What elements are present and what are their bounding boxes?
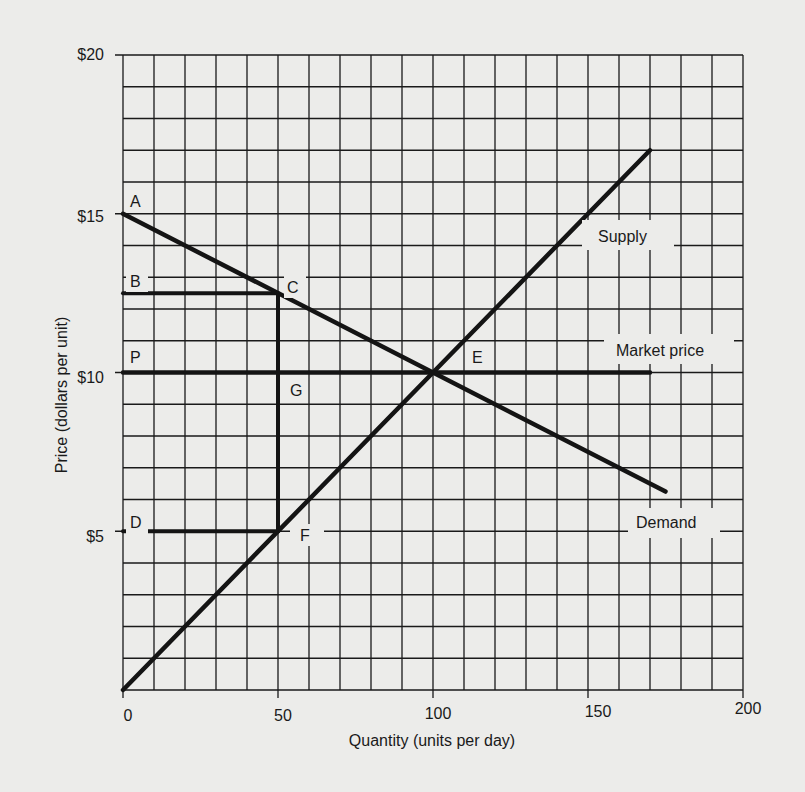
label-B: B — [130, 273, 141, 290]
supply-line — [123, 150, 650, 690]
x-tick-50: 50 — [274, 707, 292, 724]
label-F: F — [300, 527, 310, 544]
label-C: C — [287, 279, 299, 296]
y-tick-20: $20 — [77, 46, 104, 63]
supply-demand-chart: $20 $15 $10 $5 0 50 100 150 200 Quantity… — [0, 0, 805, 792]
y-tick-5: $5 — [86, 528, 104, 545]
x-tick-0: 0 — [124, 707, 133, 724]
label-P: P — [130, 349, 141, 366]
y-axis-title: Price (dollars per unit) — [53, 317, 70, 474]
label-demand: Demand — [636, 514, 696, 531]
label-E: E — [472, 349, 483, 366]
x-tick-150: 150 — [585, 703, 612, 720]
label-D: D — [130, 514, 142, 531]
label-supply: Supply — [598, 228, 647, 245]
label-A: A — [130, 193, 141, 210]
label-G: G — [290, 382, 302, 399]
label-market-price: Market price — [616, 342, 704, 359]
y-tick-15: $15 — [77, 208, 104, 225]
x-axis-title: Quantity (units per day) — [349, 732, 515, 749]
point-labels: A B C P G E D F Supply Market price Dema… — [126, 190, 734, 546]
y-tick-10: $10 — [77, 369, 104, 386]
x-tick-100: 100 — [425, 705, 452, 722]
x-tick-200: 200 — [735, 700, 762, 717]
demand-line — [123, 214, 666, 492]
